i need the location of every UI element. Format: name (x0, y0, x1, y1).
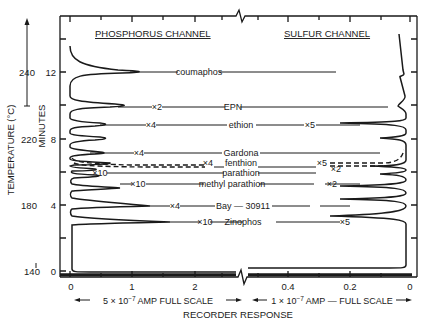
atten-p-fenthion: ×4 (203, 158, 213, 168)
x-tick-s-0: 0 (407, 281, 412, 292)
x-tick-p-2: 2 (192, 281, 197, 292)
baseline-lines (60, 274, 412, 276)
label-fenthion: fenthion (225, 158, 257, 168)
phosphorus-channel-title: PHOSPHORUS CHANNEL (95, 28, 211, 39)
x-tick-p-1: 1 (129, 281, 134, 292)
x-tick-p-0: 0 (68, 281, 73, 292)
atten-p-zinophos: ×10 (197, 217, 212, 227)
atten-p-bay: ×4 (170, 201, 180, 211)
atten-s-methyl: ×2 (327, 179, 337, 189)
atten-s-ethion: ×5 (305, 120, 315, 130)
temperature-arrow (24, 22, 30, 106)
label-methyl-parathion: methyl parathion (199, 179, 266, 189)
label-parathion: parathion (222, 168, 260, 178)
atten-p-ethion: ×4 (146, 120, 156, 130)
temp-tick-240: 240 (19, 67, 35, 78)
temperature-axis-label: TEMPERATURE (°C) (5, 105, 16, 196)
temp-tick-180: 180 (21, 200, 37, 211)
min-tick-8: 8 (51, 134, 56, 145)
label-gardona: Gardona (223, 148, 258, 158)
top-ticks (70, 16, 410, 22)
atten-p-epn: ×2 (152, 102, 162, 112)
min-tick-12: 12 (45, 67, 56, 78)
chromatogram-chart: PHOSPHORUS CHANNEL SULFUR CHANNEL coumap… (0, 0, 427, 325)
label-ethion: ethion (229, 120, 254, 130)
label-zinophos: Zinophos (224, 217, 262, 227)
x-tick-s-02: 0.2 (343, 281, 356, 292)
x-axis-label: RECORDER RESPONSE (183, 309, 293, 320)
sulfur-fenthion-dashed (330, 150, 404, 163)
min-tick-4: 4 (51, 200, 56, 211)
phosphorus-scale-label: 5 × 10−7 AMP FULL SCALE (103, 295, 213, 306)
x-tick-s-04: 0.4 (281, 281, 294, 292)
atten-p-gardona: ×4 (134, 148, 144, 158)
atten-p-methyl: ×10 (130, 179, 145, 189)
right-ticks (411, 39, 417, 238)
sulfur-trace (248, 34, 406, 268)
atten-s-zinophos: ×5 (340, 217, 350, 227)
label-bay: Bay — 30911 (216, 201, 270, 211)
atten-s-parathion: ×2 (331, 164, 341, 174)
sulfur-channel-title: SULFUR CHANNEL (284, 28, 370, 39)
minutes-axis-label: MINUTES (36, 105, 47, 148)
temperature-arrowhead (25, 18, 30, 25)
label-coumaphos: coumaphos (176, 67, 223, 77)
temp-tick-220: 220 (21, 134, 37, 145)
min-tick-0: 0 (51, 266, 56, 277)
sulfur-scale-label: 1 × 10−7 AMP — FULL SCALE (271, 295, 393, 306)
atten-s-fenthion: ×5 (317, 158, 327, 168)
label-epn: EPN (224, 102, 243, 112)
left-ticks (60, 39, 66, 271)
frame-top-left (60, 10, 417, 22)
atten-p-parathion: ×10 (92, 168, 107, 178)
temp-tick-140: 140 (24, 266, 40, 277)
